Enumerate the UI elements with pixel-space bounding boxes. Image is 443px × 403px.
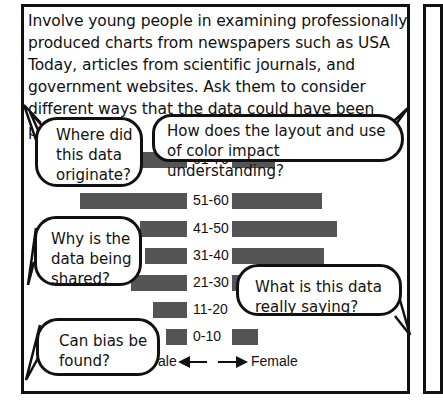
- bubble-text: Where did this data originate?: [56, 126, 133, 184]
- bubble-text: What is this data really saying?: [255, 278, 382, 316]
- bubble-text: Can bias be found?: [59, 332, 147, 370]
- bubble-what-data-saying: What is this data really saying?: [236, 264, 402, 316]
- bubble-text: Why is the data being shared?: [51, 230, 132, 288]
- bubble-why-data-shared: Why is the data being shared?: [34, 216, 142, 286]
- bubble-can-bias-be-found: Can bias be found?: [36, 318, 160, 376]
- bubble-layout-color-impact: How does the layout and use of color imp…: [152, 114, 404, 162]
- bubble-where-did-data-originate: Where did this data originate?: [35, 117, 143, 187]
